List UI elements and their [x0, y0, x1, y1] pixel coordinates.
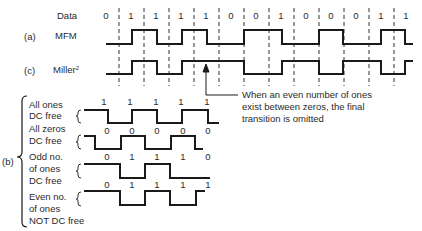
group-bit: 1	[127, 180, 137, 190]
group-bit: 0	[127, 126, 137, 136]
miller-label: Miller2	[53, 65, 79, 75]
even-ones-waveform	[84, 191, 205, 205]
annotation-line: transition is omitted	[242, 113, 324, 125]
group-label: NOT DC free	[29, 216, 84, 226]
group-bit: 1	[151, 97, 161, 107]
brace-all-ones	[76, 110, 81, 123]
data-bit: 0	[326, 11, 336, 21]
mfm-waveform	[106, 30, 413, 44]
group-bit: 1	[125, 97, 135, 107]
group-label: of ones	[29, 204, 60, 214]
group-label: All ones	[29, 100, 63, 110]
group-label: DC free	[29, 136, 62, 146]
group-bit: 1	[176, 97, 186, 107]
all-zeros-waveform	[84, 136, 203, 149]
group-bit: 0	[102, 180, 112, 190]
group-bit: 0	[203, 126, 213, 136]
data-bit: 1	[126, 11, 136, 21]
miller-tag: (c)	[24, 66, 35, 76]
section-b-bracket	[17, 96, 27, 227]
data-bit: 1	[401, 11, 411, 21]
all-ones-waveform	[84, 110, 219, 123]
mfm-label: MFM	[55, 31, 77, 41]
data-bit: 0	[351, 11, 361, 21]
group-bit: 1	[203, 180, 213, 190]
section-b-tag: (b)	[2, 157, 14, 167]
data-bit: 0	[101, 11, 111, 21]
group-bit: 1	[178, 152, 188, 162]
data-bit: 1	[151, 11, 161, 21]
brace-all-zeros	[76, 135, 81, 149]
group-label: All zeros	[29, 124, 65, 134]
data-bit: 1	[376, 11, 386, 21]
group-bit: 1	[99, 97, 109, 107]
group-bit: 0	[152, 126, 162, 136]
group-bit: 1	[202, 97, 212, 107]
annotation-arrow	[203, 64, 238, 95]
annotation-line: When an even number of ones	[242, 89, 372, 101]
data-bit: 0	[226, 11, 236, 21]
data-bit: 0	[251, 11, 261, 21]
brace-even-ones	[76, 192, 81, 206]
data-row-label: Data	[57, 11, 77, 21]
group-label: of ones	[29, 164, 60, 174]
mfm-tag: (a)	[24, 32, 36, 42]
odd-ones-waveform	[84, 164, 210, 178]
data-bit: 1	[201, 11, 211, 21]
group-bit: 1	[178, 180, 188, 190]
miller-squared-waveform	[106, 61, 413, 74]
group-bit: 0	[203, 152, 213, 162]
miller-superscript: 2	[76, 65, 79, 71]
group-bit: 1	[127, 152, 137, 162]
group-bit: 0	[102, 152, 112, 162]
brace-odd-ones	[76, 164, 81, 178]
data-bit: 1	[176, 11, 186, 21]
group-bit: 1	[152, 180, 162, 190]
data-bit: 1	[276, 11, 286, 21]
data-bit: 0	[301, 11, 311, 21]
group-bit: 0	[102, 126, 112, 136]
group-bit: 0	[178, 126, 188, 136]
group-label: Odd no.	[29, 152, 63, 162]
group-label: Even no.	[29, 192, 67, 202]
group-label: DC free	[29, 111, 62, 121]
group-label: DC free	[29, 176, 62, 186]
group-bit: 1	[152, 152, 162, 162]
annotation-line: exist between zeros, the final	[242, 101, 365, 113]
miller-label-text: Miller	[53, 64, 76, 75]
